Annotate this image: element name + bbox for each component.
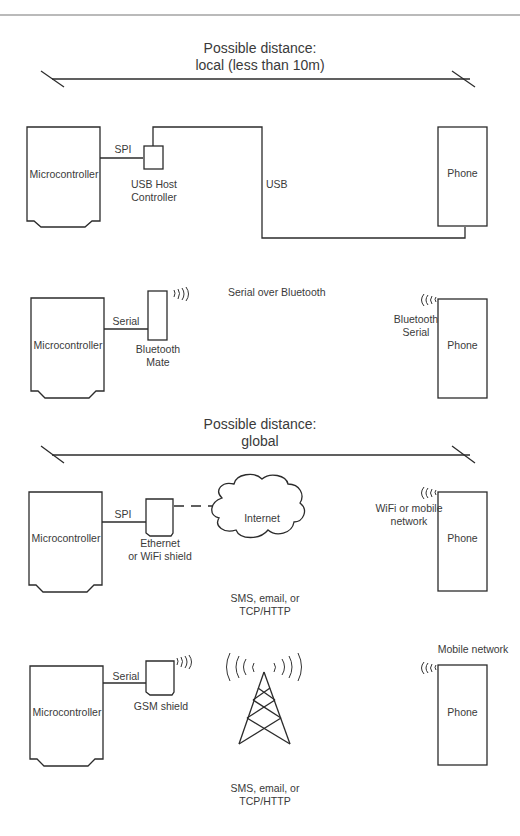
microcontroller-label: Microcontroller (27, 168, 101, 181)
internet-cloud-label: Internet (230, 512, 294, 525)
spi-label: SPI (111, 143, 135, 156)
phone-label: Phone (438, 167, 487, 180)
usb-host-controller-label-line2: Controller (124, 191, 184, 204)
cell-tower-icon (227, 653, 302, 744)
wifi-mobile-label-line1: WiFi or mobile (372, 502, 446, 515)
global-distance-title: Possible distance: (160, 416, 360, 433)
protocol-label-line2: TCP/HTTP (220, 795, 310, 808)
serial-label: Serial (108, 670, 144, 683)
protocol-label-line1: SMS, email, or (220, 592, 310, 605)
radio-waves-icon (422, 294, 437, 306)
bluetooth-serial-label-line1: Bluetooth (388, 313, 444, 326)
microcontroller-label: Microcontroller (30, 706, 104, 719)
bluetooth-mate-label-line1: Bluetooth (128, 343, 188, 356)
gsm-shield-label: GSM shield (128, 700, 194, 713)
radio-waves-icon (174, 287, 189, 301)
usb-scenario (27, 127, 487, 238)
bluetooth-serial-label-line2: Serial (388, 326, 444, 339)
serial-label: Serial (108, 315, 144, 328)
local-distance-value: local (less than 10m) (160, 57, 360, 74)
local-distance-title: Possible distance: (160, 40, 360, 57)
phone-label: Phone (438, 706, 487, 719)
usb-cable-label: USB (266, 178, 288, 191)
mobile-network-label: Mobile network (430, 643, 516, 656)
radio-waves-icon (422, 662, 437, 674)
ethernet-wifi-shield (146, 499, 173, 536)
ethernet-wifi-shield-label-line1: Ethernet (125, 537, 195, 550)
communication-options-diagram: Possible distance: local (less than 10m)… (0, 0, 520, 836)
phone-label: Phone (438, 339, 487, 352)
usb-host-controller (144, 146, 163, 169)
microcontroller-label: Microcontroller (31, 339, 105, 352)
protocol-label-line1: SMS, email, or (220, 782, 310, 795)
global-distance-value: global (160, 433, 360, 450)
radio-waves-icon (422, 487, 437, 499)
phone-label: Phone (438, 532, 487, 545)
usb-host-controller-label-line1: USB Host (124, 178, 184, 191)
bluetooth-mate-label-line2: Mate (128, 356, 188, 369)
gsm-shield (146, 661, 174, 695)
microcontroller-label: Microcontroller (29, 532, 103, 545)
radio-waves-icon (177, 655, 192, 669)
bluetooth-mate-module (148, 291, 167, 340)
protocol-label-line2: TCP/HTTP (220, 605, 310, 618)
wifi-mobile-label-line2: network (372, 515, 446, 528)
usb-cable (153, 127, 465, 238)
ethernet-wifi-shield-label-line2: or WiFi shield (125, 550, 195, 563)
cloud-icon (212, 474, 305, 537)
spi-label: SPI (111, 508, 135, 521)
serial-over-bluetooth-label: Serial over Bluetooth (228, 286, 325, 299)
